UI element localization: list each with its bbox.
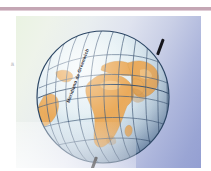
- globe-shading: [37, 31, 169, 163]
- top-divider-rule-soft: [0, 10, 211, 11]
- globe-illustration-plate: © DAE/Sonia Vaz: [16, 16, 201, 168]
- globe-svg: [32, 26, 174, 166]
- margin-artifact-mark: ä: [10, 62, 15, 72]
- figure-root: ä © DAE/Sonia Vaz: [0, 0, 211, 171]
- globe-graphic: Meridiano de Greenwich: [32, 26, 174, 166]
